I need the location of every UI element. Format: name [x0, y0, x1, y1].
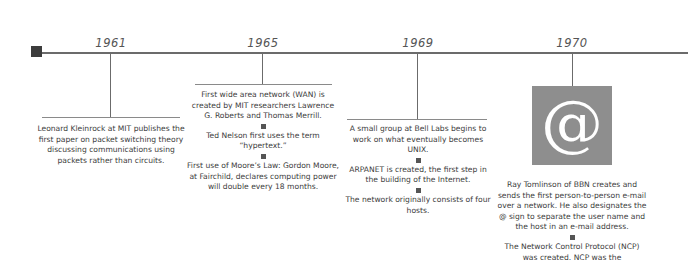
connector-1961	[110, 53, 111, 117]
year-label-1970: 1970	[556, 36, 587, 50]
divider-1961	[42, 117, 180, 118]
bullet-square-icon	[261, 124, 266, 129]
event-text: The Network Control Protocol (NCP) was c…	[497, 242, 647, 263]
bullet-square-icon	[570, 235, 575, 240]
bullet-square-icon	[416, 158, 421, 163]
event-text: First use of Moore’s Law: Gordon Moore, …	[187, 161, 339, 193]
event-text: Ted Nelson first uses the term “hypertex…	[187, 131, 339, 152]
event-text: A small group at Bell Labs begins to wor…	[342, 124, 494, 156]
event-text: First wide area network (WAN) is created…	[187, 90, 339, 122]
connector-1965	[262, 53, 263, 84]
event-text: Ray Tomlinson of BBN creates and sends t…	[497, 180, 647, 233]
at-sign-icon: @	[541, 92, 603, 154]
year-label-1969: 1969	[402, 36, 433, 50]
event-block-1965: First wide area network (WAN) is created…	[187, 90, 339, 193]
event-text: The network originally consists of four …	[342, 195, 494, 216]
timeline-start-marker	[31, 46, 42, 57]
event-text: Leonard Kleinrock at MIT publishes the f…	[36, 124, 186, 166]
connector-1969	[417, 53, 418, 119]
connector-1970	[572, 53, 573, 86]
event-block-1961: Leonard Kleinrock at MIT publishes the f…	[36, 124, 186, 166]
bullet-square-icon	[261, 154, 266, 159]
timeline-axis	[36, 52, 688, 54]
divider-1969	[347, 119, 487, 120]
year-label-1965: 1965	[247, 36, 278, 50]
event-block-1970: Ray Tomlinson of BBN creates and sends t…	[497, 180, 647, 263]
event-text: ARPANET is created, the first step in th…	[342, 165, 494, 186]
email-at-sign-icon: @	[532, 86, 612, 165]
bullet-square-icon	[416, 188, 421, 193]
event-block-1969: A small group at Bell Labs begins to wor…	[342, 124, 494, 216]
divider-1965	[195, 84, 332, 85]
year-label-1961: 1961	[95, 36, 126, 50]
